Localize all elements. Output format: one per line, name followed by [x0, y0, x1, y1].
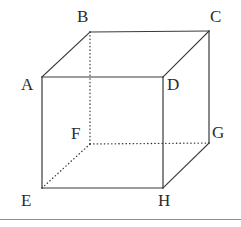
edge-layer — [42, 31, 209, 188]
vertex-label-d: D — [167, 76, 179, 93]
vertex-label-c: C — [210, 8, 221, 25]
cube-edge-cd — [163, 31, 209, 77]
vertex-label-h: H — [158, 192, 170, 209]
cube-edge-fe — [42, 144, 90, 188]
vertex-label-e: E — [21, 192, 31, 209]
cube-edge-fg — [90, 143, 209, 144]
vertex-label-b: B — [77, 8, 88, 25]
vertex-label-g: G — [212, 124, 224, 141]
cube-figure: ABCDEFGH — [0, 0, 241, 227]
cube-edge-gh — [163, 143, 209, 188]
cube-drawing — [0, 0, 241, 227]
vertex-label-f: F — [71, 125, 80, 142]
horizontal-rule — [0, 219, 241, 220]
cube-edge-bc — [90, 31, 209, 32]
cube-edge-ab — [42, 32, 90, 77]
vertex-label-a: A — [21, 76, 33, 93]
